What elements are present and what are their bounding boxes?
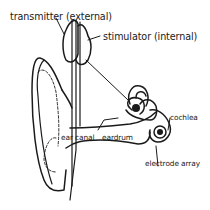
concha-dashed <box>44 138 56 172</box>
label-cochlea: cochlea <box>170 114 198 121</box>
outer-ear-drawing <box>32 58 72 191</box>
inner-ear-dark-mass <box>132 104 140 112</box>
label-transmitter: transmitter (external) <box>10 12 112 22</box>
label-stimulator: stimulator (internal) <box>103 32 197 42</box>
label-ear-canal: ear canal <box>61 134 94 141</box>
label-electrode-array: electrode array <box>145 160 200 167</box>
label-eardrum: eardrum <box>102 134 133 141</box>
cochlea-core <box>157 129 163 135</box>
